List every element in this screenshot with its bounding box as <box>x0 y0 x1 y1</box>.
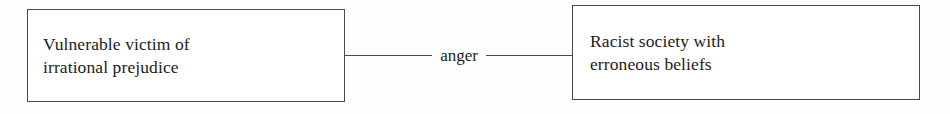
edge-anger-label: anger <box>440 47 478 64</box>
relationship-diagram: Vulnerable victim of irrational prejudic… <box>0 0 950 114</box>
node-vulnerable-victim-label: Vulnerable victim of irrational prejudic… <box>43 33 190 78</box>
edge-line-right <box>486 55 573 56</box>
node-racist-society: Racist society with erroneous beliefs <box>572 5 920 100</box>
node-racist-society-label: Racist society with erroneous beliefs <box>590 30 725 75</box>
node-vulnerable-victim: Vulnerable victim of irrational prejudic… <box>27 9 345 102</box>
edge-anger: anger <box>345 38 573 72</box>
edge-line-left <box>345 55 432 56</box>
